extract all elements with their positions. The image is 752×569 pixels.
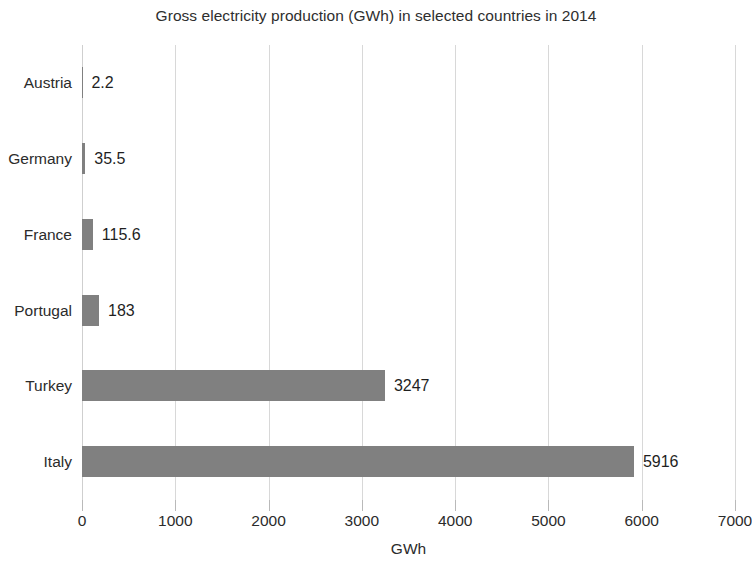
bar-value-label: 3247 — [385, 370, 430, 401]
bar — [82, 446, 634, 477]
x-axis-tick-label: 7000 — [718, 512, 752, 530]
y-axis-category-label: France — [24, 219, 72, 250]
y-axis-category-label: Germany — [8, 143, 72, 174]
x-axis-tick — [548, 500, 549, 511]
bar-value-label: 183 — [99, 295, 135, 326]
x-axis-tick — [82, 500, 83, 511]
bar — [82, 295, 99, 326]
y-axis-category-label: Italy — [44, 446, 72, 477]
plot-area: 2.235.5115.618332475916 — [82, 45, 735, 500]
bar — [82, 219, 93, 250]
bar-row: 5916 — [82, 424, 735, 500]
bar-value-label: 5916 — [634, 446, 679, 477]
gridline — [735, 45, 736, 500]
x-axis-tick — [735, 500, 736, 511]
chart-title: Gross electricity production (GWh) in se… — [0, 7, 752, 25]
bar-row: 115.6 — [82, 197, 735, 273]
y-axis-category-label: Portugal — [14, 295, 72, 326]
bar-value-label: 35.5 — [85, 143, 125, 174]
y-axis-category-label: Turkey — [25, 370, 72, 401]
x-axis-tick-label: 0 — [78, 512, 87, 530]
x-axis-title: GWh — [82, 540, 735, 558]
y-axis-labels: AustriaGermanyFrancePortugalTurkeyItaly — [0, 45, 82, 500]
x-axis-tick — [362, 500, 363, 511]
x-axis-tick-label: 2000 — [251, 512, 285, 530]
bar-row: 2.2 — [82, 45, 735, 121]
bar-row: 183 — [82, 273, 735, 349]
x-axis-tick-label: 4000 — [438, 512, 472, 530]
x-axis-tick-label: 6000 — [624, 512, 658, 530]
bar-chart: Gross electricity production (GWh) in se… — [0, 0, 752, 569]
x-axis-tick — [455, 500, 456, 511]
bar-value-label: 2.2 — [82, 67, 113, 98]
bar-row: 3247 — [82, 348, 735, 424]
x-axis-tick — [642, 500, 643, 511]
x-axis-tick — [269, 500, 270, 511]
y-axis-category-label: Austria — [24, 67, 72, 98]
bar — [82, 370, 385, 401]
x-axis-tick-label: 1000 — [158, 512, 192, 530]
x-axis-tick — [175, 500, 176, 511]
x-axis-tick-label: 3000 — [345, 512, 379, 530]
bar-value-label: 115.6 — [93, 219, 141, 250]
x-axis-tick-label: 5000 — [531, 512, 565, 530]
bar-row: 35.5 — [82, 121, 735, 197]
